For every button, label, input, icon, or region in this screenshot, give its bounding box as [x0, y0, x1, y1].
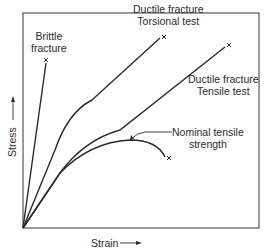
brittle-fracture-label: Brittle fracture [31, 30, 67, 54]
torsional-x-marker-icon [162, 35, 166, 39]
nominal-leader-line [131, 132, 172, 139]
arrowhead-icon [130, 135, 134, 140]
brittle-curve [23, 63, 46, 228]
x-axis-label: Strain [91, 237, 118, 249]
torsional-fracture-label: Ductile fracture Torsional test [133, 3, 204, 27]
brittle-x-marker-icon [44, 58, 48, 62]
nominal-tensile-strength-label: Nominal tensile strength [172, 126, 244, 150]
y-axis-arrowhead-icon [11, 96, 15, 102]
tensile-x-marker-icon [227, 43, 231, 47]
nominal-curve [23, 140, 165, 228]
tensile-fracture-label: Ductile fracture Tensile test [188, 73, 259, 97]
y-axis-label: Stress [6, 127, 18, 157]
nominal-x-marker-icon [167, 156, 171, 160]
x-axis-arrowhead-icon [136, 241, 142, 245]
